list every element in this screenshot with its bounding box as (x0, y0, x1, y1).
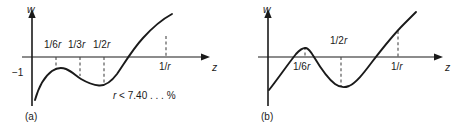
panel-b-plot (236, 0, 471, 128)
x-axis-label-b: z (445, 62, 450, 73)
panel-a-plot (0, 0, 236, 128)
x-tick-label-1-r-b: 1/r (391, 62, 403, 72)
x-tick-label-1-6r-b: 1/6r (293, 62, 310, 72)
x-tick-label-1-6r: 1/6r (44, 40, 61, 50)
panel-tag-a: (a) (25, 112, 37, 122)
panel-a: w z −1 1/6r 1/3r 1/2r 1/r r < 7.40 . . .… (0, 0, 236, 128)
tick-guides-b (305, 31, 398, 87)
x-axis-b (258, 53, 443, 60)
x-tick-label-1-3r: 1/3r (68, 40, 85, 50)
x-tick-label-1-r-a: 1/r (159, 62, 171, 72)
x-axis-a (22, 53, 210, 60)
x-tick-label-1-2r-b: 1/2r (330, 36, 347, 46)
y-axis-label-a: w (27, 4, 35, 15)
figure-root: w z −1 1/6r 1/3r 1/2r 1/r r < 7.40 . . .… (0, 0, 471, 128)
y-axis-label-b: w (263, 4, 271, 15)
y-tick-label-minus-one: −1 (12, 68, 23, 78)
panel-tag-b: (b) (261, 112, 273, 122)
curve-b (269, 12, 416, 90)
condition-annotation-a: r < 7.40 . . . % (113, 91, 176, 101)
panel-b: w z 1/6r 1/2r 1/r (b) (236, 0, 471, 128)
x-tick-label-1-2r: 1/2r (93, 40, 110, 50)
x-axis-label-a: z (212, 62, 217, 73)
